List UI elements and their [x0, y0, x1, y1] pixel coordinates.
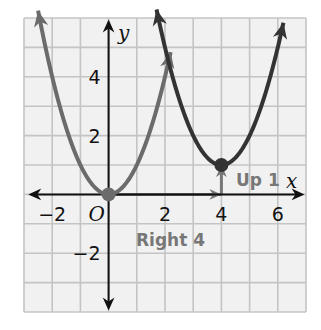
y-tick-label: 2: [89, 125, 101, 147]
x-tick-label: 2: [159, 203, 171, 225]
parabola-translation-graph: −2O24642−2 x y Up 1 Right 4: [0, 0, 321, 330]
x-tick-label: −2: [38, 203, 66, 225]
vertex-point: [102, 187, 116, 201]
up-1-annotation: Up 1: [236, 170, 280, 190]
y-axis-label: y: [117, 21, 130, 45]
y-tick-label: −2: [73, 242, 101, 264]
right-4-annotation: Right 4: [136, 230, 205, 250]
y-tick-label: 4: [89, 66, 101, 88]
x-axis-label: x: [286, 169, 297, 193]
x-tick-label: O: [88, 202, 104, 226]
x-tick-label: 6: [272, 203, 284, 225]
vertex-point: [214, 158, 228, 172]
x-tick-label: 4: [215, 203, 227, 225]
